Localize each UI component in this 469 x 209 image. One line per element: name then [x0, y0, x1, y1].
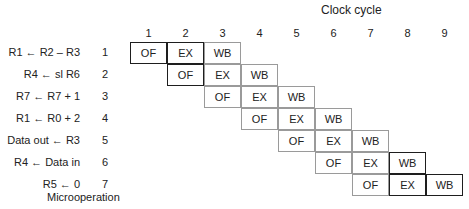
stage-cell-ex: EX — [278, 108, 315, 130]
microoperation-label: Microoperation — [47, 191, 120, 203]
stage-cell-of: OF — [130, 42, 167, 64]
stage-cell-ex: EX — [167, 42, 204, 64]
microoperation-text: R4 ← Data in — [0, 156, 80, 168]
stage-cell-wb: WB — [204, 42, 241, 64]
stage-cell-ex: EX — [241, 86, 278, 108]
stage-cell-ex: EX — [389, 174, 426, 196]
clock-cycle-number: 9 — [426, 27, 463, 39]
stage-cell-wb: WB — [278, 86, 315, 108]
microoperation-number: 4 — [99, 112, 111, 124]
microoperation-number: 2 — [99, 68, 111, 80]
microoperation-text: R7 ← R7 + 1 — [0, 90, 80, 102]
microoperation-number: 1 — [99, 46, 111, 58]
clock-cycle-number: 7 — [352, 27, 389, 39]
clock-cycle-number: 6 — [315, 27, 352, 39]
stage-cell-ex: EX — [204, 64, 241, 86]
microoperation-number: 7 — [99, 178, 111, 190]
clock-cycle-number: 1 — [130, 27, 167, 39]
clock-cycle-number: 4 — [241, 27, 278, 39]
microoperation-text: R4 ← sl R6 — [0, 68, 80, 80]
microoperation-number: 3 — [99, 90, 111, 102]
clock-cycle-title: Clock cycle — [321, 3, 382, 17]
stage-cell-of: OF — [278, 130, 315, 152]
stage-cell-wb: WB — [389, 152, 426, 174]
clock-cycle-number: 8 — [389, 27, 426, 39]
stage-cell-of: OF — [241, 108, 278, 130]
microoperation-number: 5 — [99, 134, 111, 146]
stage-cell-wb: WB — [426, 174, 463, 196]
stage-cell-ex: EX — [352, 152, 389, 174]
clock-cycle-number: 2 — [167, 27, 204, 39]
stage-cell-of: OF — [167, 64, 204, 86]
microoperation-text: Data out ← R3 — [0, 134, 80, 146]
microoperation-text: R1 ← R0 + 2 — [0, 112, 80, 124]
microoperation-number: 6 — [99, 156, 111, 168]
stage-cell-ex: EX — [315, 130, 352, 152]
clock-cycle-number: 5 — [278, 27, 315, 39]
stage-cell-of: OF — [204, 86, 241, 108]
stage-cell-wb: WB — [241, 64, 278, 86]
stage-cell-wb: WB — [315, 108, 352, 130]
stage-cell-of: OF — [352, 174, 389, 196]
clock-cycle-number: 3 — [204, 27, 241, 39]
microoperation-text: R1 ← R2 – R3 — [0, 46, 80, 58]
microoperation-text: R5 ← 0 — [0, 178, 80, 190]
stage-cell-wb: WB — [352, 130, 389, 152]
stage-cell-of: OF — [315, 152, 352, 174]
